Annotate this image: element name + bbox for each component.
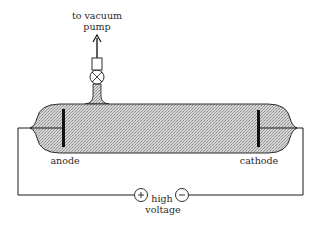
pump-label-line1: to vacuum — [72, 10, 122, 21]
anode-plate — [62, 109, 65, 147]
cathode-plate — [257, 110, 260, 147]
arrow-up-icon — [93, 35, 101, 58]
minus-terminal-icon — [176, 189, 189, 202]
discharge-tube-diagram: to vacuum pump anode cathode high voltag… — [0, 0, 320, 230]
voltage-label-line1: high — [151, 193, 172, 204]
plus-terminal-icon — [135, 189, 148, 202]
valve-icon — [90, 70, 104, 84]
pump-label-line2: pump — [83, 21, 110, 32]
cathode-label: cathode — [240, 155, 279, 166]
voltage-label-line2: voltage — [144, 204, 181, 215]
pump-connector — [92, 58, 102, 70]
anode-label: anode — [50, 155, 80, 166]
discharge-tube — [30, 104, 297, 153]
pump-stem — [85, 84, 109, 104]
